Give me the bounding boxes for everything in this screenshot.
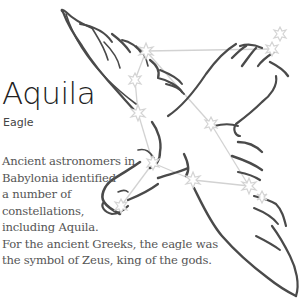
description-line: Ancient astronomers in — [2, 153, 301, 170]
description-line: For the ancient Greeks, the eagle was — [2, 236, 301, 253]
constellation-title: Aquila — [2, 78, 95, 109]
description-line: constellations, — [2, 203, 301, 220]
star-icon — [274, 27, 286, 41]
description-line: a number of — [2, 186, 301, 203]
description-line: including Aquila. — [2, 219, 301, 236]
description-line: Babylonia identified — [2, 170, 301, 187]
constellation-subtitle: Eagle — [3, 116, 34, 129]
description-line: the symbol of Zeus, king of the gods. — [2, 252, 301, 269]
star-icon — [129, 73, 141, 87]
constellation-description: Ancient astronomers in Babylonia identif… — [2, 153, 301, 269]
